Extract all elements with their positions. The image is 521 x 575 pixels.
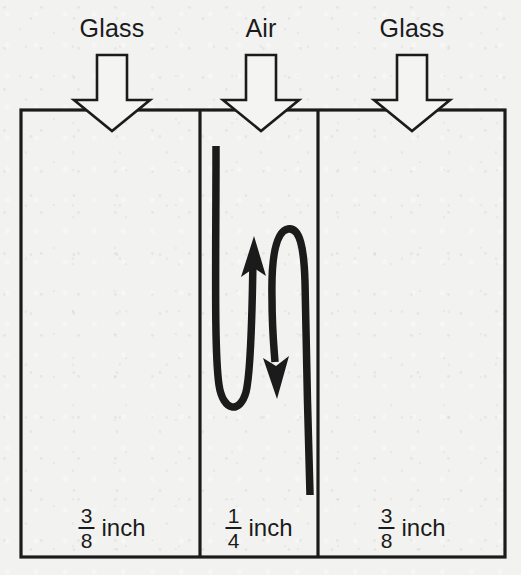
thickness-unit-right-glass: inch — [401, 514, 445, 542]
convection-down-branch — [272, 298, 275, 362]
thickness-label-air-gap: 1 4 inch — [225, 505, 292, 551]
fraction-denominator: 8 — [379, 529, 395, 551]
arrow-down-outline-icon-air — [223, 55, 299, 131]
fraction-numerator: 1 — [226, 505, 242, 527]
thickness-label-left-glass: 3 8 inch — [78, 505, 145, 551]
fraction-right-glass: 3 8 — [378, 505, 394, 551]
convection-crest — [272, 229, 305, 298]
insulated-glass-diagram: Glass Air Glass — [0, 0, 521, 575]
fraction-denominator: 4 — [226, 529, 242, 551]
glazing-unit-outline — [21, 110, 505, 557]
fraction-air-gap: 1 4 — [225, 505, 241, 551]
fraction-numerator: 3 — [379, 505, 395, 527]
convection-tail — [305, 282, 310, 495]
fraction-left-glass: 3 8 — [78, 505, 94, 551]
convection-current-arrow — [216, 146, 310, 495]
thickness-unit-left-glass: inch — [101, 514, 145, 542]
thickness-label-right-glass: 3 8 inch — [378, 505, 445, 551]
diagram-linework — [0, 0, 521, 575]
convection-down-arrowhead-icon — [263, 356, 289, 399]
thickness-unit-air-gap: inch — [248, 514, 292, 542]
arrow-down-outline-icon-left-glass — [74, 55, 150, 131]
arrow-down-outline-icon-right-glass — [374, 55, 450, 131]
fraction-numerator: 3 — [79, 505, 95, 527]
fraction-denominator: 8 — [79, 529, 95, 551]
convection-up-branch — [216, 146, 253, 407]
